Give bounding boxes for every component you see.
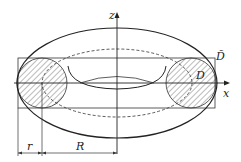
circle-label: D bbox=[195, 69, 205, 82]
dim-arrow-icon bbox=[42, 152, 46, 155]
z-axis-arrow-icon bbox=[115, 12, 120, 18]
minor-radius-label: r bbox=[27, 140, 33, 153]
major-radius-label: R bbox=[75, 140, 84, 153]
z-axis-label: z bbox=[108, 9, 115, 22]
outer-box-label: D̃ bbox=[215, 50, 225, 63]
torus-diagram: z x D̃ D r R bbox=[0, 0, 241, 162]
dim-arrow-icon bbox=[113, 152, 117, 155]
x-axis-arrow-icon bbox=[224, 81, 230, 86]
dim-arrow-icon bbox=[18, 152, 22, 155]
x-axis-label: x bbox=[223, 87, 230, 100]
dim-arrow-icon bbox=[38, 152, 42, 155]
